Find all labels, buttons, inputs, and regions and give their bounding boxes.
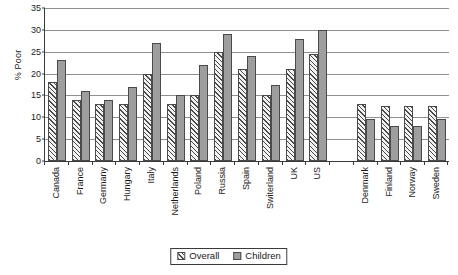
plot-area: 05101520253035 bbox=[44, 8, 449, 162]
bar-netherlands-overall bbox=[167, 104, 176, 161]
bar-uk-overall bbox=[286, 69, 295, 161]
y-tick-label-35: 35 bbox=[31, 4, 41, 13]
x-axis-label-germany: Germany bbox=[99, 167, 108, 204]
x-label-cell: Sweden bbox=[424, 165, 448, 237]
bar-hungary-overall bbox=[119, 104, 128, 161]
bar-france-children bbox=[81, 91, 90, 161]
bar-france-overall bbox=[72, 100, 81, 161]
bar-germany-overall bbox=[95, 104, 104, 161]
bar-us-overall bbox=[309, 54, 318, 161]
legend-swatch-overall bbox=[177, 252, 185, 260]
x-axis-label-denmark: Denmark bbox=[360, 167, 369, 204]
bar-group-sweden bbox=[425, 8, 449, 161]
bar-group-switerland bbox=[259, 8, 283, 161]
x-label-cell: Poland bbox=[187, 165, 211, 237]
bar-group-italy bbox=[140, 8, 164, 161]
x-axis-label-hungary: Hungary bbox=[123, 167, 132, 201]
x-label-cell: Norway bbox=[400, 165, 424, 237]
y-tick-label-25: 25 bbox=[31, 47, 41, 56]
x-axis-label-sweden: Sweden bbox=[432, 167, 441, 200]
bar-spain-children bbox=[247, 56, 256, 161]
bar-group-netherlands bbox=[164, 8, 188, 161]
x-label-cell: Germany bbox=[92, 165, 116, 237]
bar-denmark-children bbox=[366, 119, 375, 161]
x-label-cell: Switerland bbox=[258, 165, 282, 237]
bar-group-spacer bbox=[330, 8, 354, 161]
bar-canada-children bbox=[57, 60, 66, 161]
bar-switerland-overall bbox=[262, 95, 271, 161]
x-label-cell: Denmark bbox=[353, 165, 377, 237]
bar-group-uk bbox=[283, 8, 307, 161]
x-label-cell: Finland bbox=[377, 165, 401, 237]
bar-group-denmark bbox=[354, 8, 378, 161]
chart-legend: Overall Children bbox=[170, 248, 287, 265]
y-tick-label-5: 5 bbox=[36, 135, 41, 144]
x-axis-label-uk: UK bbox=[289, 167, 298, 180]
x-label-cell: Netherlands bbox=[163, 165, 187, 237]
bar-sweden-children bbox=[437, 119, 446, 161]
x-axis-label-france: France bbox=[75, 167, 84, 195]
bar-norway-children bbox=[413, 126, 422, 161]
bar-poland-children bbox=[199, 65, 208, 161]
bar-group-germany bbox=[93, 8, 117, 161]
bars-layer bbox=[45, 8, 449, 161]
x-axis-label-spain: Spain bbox=[242, 167, 251, 190]
x-axis-label-norway: Norway bbox=[408, 167, 417, 198]
legend-label-children: Children bbox=[245, 251, 280, 261]
bar-finland-children bbox=[390, 126, 399, 161]
bar-denmark-overall bbox=[357, 104, 366, 161]
bar-finland-overall bbox=[381, 106, 390, 161]
y-tick-label-20: 20 bbox=[31, 69, 41, 78]
x-axis-label-us: US bbox=[313, 167, 322, 180]
bar-norway-overall bbox=[404, 106, 413, 161]
legend-entry-overall: Overall bbox=[177, 251, 219, 261]
bar-uk-children bbox=[295, 39, 304, 161]
bar-sweden-overall bbox=[428, 106, 437, 161]
bar-canada-overall bbox=[48, 82, 57, 161]
legend-label-overall: Overall bbox=[189, 251, 219, 261]
x-label-cell: UK bbox=[282, 165, 306, 237]
x-axis-label-poland: Poland bbox=[194, 167, 203, 195]
bar-group-hungary bbox=[116, 8, 140, 161]
bar-russia-overall bbox=[214, 52, 223, 161]
bar-poland-overall bbox=[190, 95, 199, 161]
x-axis-labels: CanadaFranceGermanyHungaryItalyNetherlan… bbox=[44, 165, 448, 237]
bar-chart: % Poor 05101520253035 CanadaFranceGerman… bbox=[0, 0, 458, 275]
x-label-cell bbox=[329, 165, 353, 237]
bar-group-russia bbox=[211, 8, 235, 161]
bar-group-spain bbox=[235, 8, 259, 161]
bar-us-children bbox=[318, 30, 327, 161]
x-axis-label-netherlands: Netherlands bbox=[170, 167, 179, 216]
bar-russia-children bbox=[223, 34, 232, 161]
x-axis-label-italy: Italy bbox=[146, 167, 155, 184]
x-label-cell: Spain bbox=[234, 165, 258, 237]
bar-group-us bbox=[306, 8, 330, 161]
bar-netherlands-children bbox=[176, 95, 185, 161]
legend-swatch-children bbox=[233, 252, 241, 260]
bar-italy-children bbox=[152, 43, 161, 161]
y-tick-label-0: 0 bbox=[36, 157, 41, 166]
x-axis-label-finland: Finland bbox=[384, 167, 393, 197]
y-tick-label-10: 10 bbox=[31, 113, 41, 122]
bar-italy-overall bbox=[143, 74, 152, 161]
bar-group-norway bbox=[401, 8, 425, 161]
x-axis-label-switerland: Switerland bbox=[265, 167, 274, 209]
y-tick-label-15: 15 bbox=[31, 91, 41, 100]
x-label-cell: Canada bbox=[44, 165, 68, 237]
y-axis-title: % Poor bbox=[13, 25, 23, 105]
bar-switerland-children bbox=[271, 85, 280, 162]
bar-group-finland bbox=[378, 8, 402, 161]
x-axis-label-canada: Canada bbox=[51, 167, 60, 199]
bar-group-poland bbox=[188, 8, 212, 161]
x-label-cell: France bbox=[68, 165, 92, 237]
bar-germany-children bbox=[104, 100, 113, 161]
x-label-cell: Hungary bbox=[115, 165, 139, 237]
x-label-cell: Russia bbox=[210, 165, 234, 237]
bar-group-france bbox=[69, 8, 93, 161]
x-label-cell: Italy bbox=[139, 165, 163, 237]
bar-group-canada bbox=[45, 8, 69, 161]
x-label-cell: US bbox=[305, 165, 329, 237]
bar-hungary-children bbox=[128, 87, 137, 161]
y-tick-label-30: 30 bbox=[31, 25, 41, 34]
legend-entry-children: Children bbox=[233, 251, 280, 261]
